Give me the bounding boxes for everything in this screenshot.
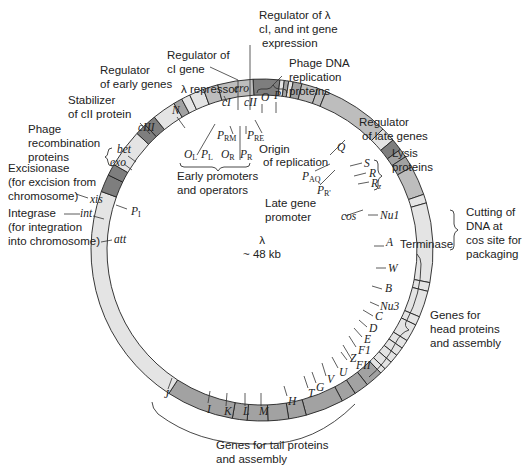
- gene-label-cos: cos: [341, 210, 357, 222]
- gene-label-fii: FII: [355, 359, 372, 371]
- promoter-pi: PI: [130, 205, 141, 219]
- genome-size-label: ~ 48 kb: [243, 248, 281, 260]
- gene-label-h: H: [287, 395, 297, 407]
- gene-label-nu1: Nu1: [379, 209, 399, 221]
- gene-label-f1: F1: [357, 344, 371, 356]
- gene-label-att: att: [114, 233, 127, 245]
- gene-label-n: N: [171, 104, 181, 116]
- cutting-dna-label: Cutting ofDNA atcos site forpackaging: [466, 206, 522, 260]
- gene-label-p: P: [273, 89, 281, 101]
- terminase-label: Terminase: [400, 238, 453, 250]
- gene-label-v: V: [327, 373, 336, 385]
- lambda-repressor-label: λ repressor: [181, 83, 239, 95]
- gene-label-ci: cI: [222, 96, 232, 108]
- gene-label-c: C: [375, 310, 383, 322]
- regulator-ci-int-label: Regulator of λcI, and int geneexpression: [259, 9, 338, 49]
- annotations: Regulator of λcI, and int geneexpression…: [8, 9, 522, 465]
- stabilizer-label: Stabilizerof cII protein: [68, 94, 131, 120]
- gene-label-j: J: [164, 388, 170, 400]
- gene-label-xis: xis: [89, 193, 103, 205]
- promoter-pl: PL: [200, 148, 213, 162]
- promoter-prm: PRM: [216, 129, 236, 143]
- promoter-pr-prime: PR': [316, 184, 331, 198]
- late-gene-promoter-label: Late genepromoter: [265, 197, 316, 223]
- promoter-paq: PAQ: [301, 170, 321, 184]
- regulator-ci-gene-label: Regulator ofcI gene: [167, 49, 230, 75]
- gene-label-l: L: [242, 405, 249, 417]
- gene-label-int: int: [80, 207, 93, 219]
- head-genes-label: Genes forhead proteinsand assembly: [430, 309, 501, 349]
- gene-label-o: O: [261, 91, 270, 103]
- lambda-genome-map: λ ~ 48 kb NcIIIbetexoxisintattcIcrocIIOP…: [0, 0, 524, 472]
- gene-label-w: W: [388, 262, 399, 274]
- phage-dna-replication-label: Phage DNAreplicationproteins: [289, 57, 350, 97]
- gene-label-k: K: [223, 405, 233, 417]
- gene-label-a: A: [385, 236, 394, 248]
- tail-genes-label: Genes for tail proteinsand assembly: [216, 439, 329, 465]
- phage-recombination-label: Phagerecombinationproteins: [28, 123, 100, 163]
- gene-label-cii: cII: [244, 96, 258, 108]
- promoter-pr: PR: [239, 148, 253, 162]
- origin-label: Originof replication: [259, 143, 328, 168]
- promoter-pre: PRE: [246, 129, 264, 143]
- gene-label-b: B: [385, 282, 392, 294]
- center-lambda-symbol: λ: [259, 234, 265, 246]
- genome-segment: [267, 403, 288, 421]
- gene-label-bet: bet: [117, 143, 132, 155]
- operator-or: OR: [221, 148, 235, 162]
- genome-segment: [91, 192, 178, 394]
- regulator-early-label: Regulatorof early genes: [100, 64, 172, 90]
- gene-label-m: M: [258, 405, 270, 417]
- operator-ol: OL: [184, 148, 197, 162]
- gene-label-ciii: cIII: [138, 121, 156, 133]
- gene-label-u: U: [339, 366, 348, 378]
- early-promoters-label: Early promotersand operators: [177, 170, 258, 196]
- gene-label-exo: exo: [110, 156, 126, 168]
- gene-label-rz: Rz: [370, 177, 382, 191]
- gene-label-g: G: [316, 381, 325, 393]
